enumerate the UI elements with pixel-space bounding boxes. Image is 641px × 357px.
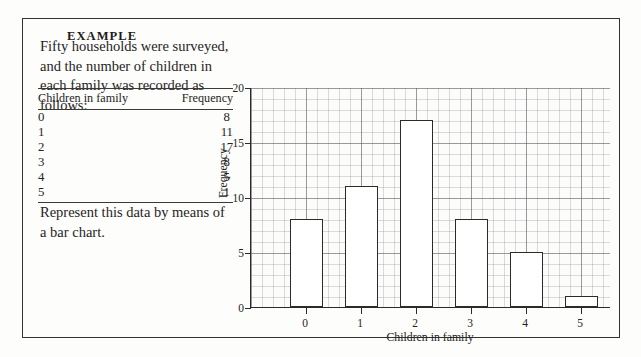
x-tick-label: 5	[577, 317, 583, 329]
table-row: 38	[38, 155, 233, 170]
table-body: 08111217384551	[38, 110, 233, 203]
bar-5	[565, 296, 598, 307]
x-tick-mark	[416, 308, 417, 314]
table-row: 111	[38, 125, 233, 140]
table-cell-children: 3	[38, 155, 134, 170]
y-tick-label: 10	[233, 192, 245, 204]
y-tick-mark	[245, 253, 251, 254]
x-tick-mark	[581, 308, 582, 314]
y-axis-label: Frequency	[216, 148, 231, 198]
frequency-table: Children in family Frequency 08111217384…	[38, 88, 233, 203]
bar-2	[400, 120, 433, 307]
y-tick-mark	[245, 88, 251, 89]
x-tick-label: 1	[357, 317, 363, 329]
bar-chart: Frequency Children in family 05101520 01…	[218, 80, 618, 338]
table-row: 51	[38, 185, 233, 203]
y-tick-label: 0	[238, 302, 244, 314]
plot-area	[250, 88, 610, 308]
table-cell-children: 0	[38, 110, 134, 126]
x-axis-label: Children in family	[386, 330, 473, 345]
example-question-text: Represent this data by means of a bar ch…	[40, 203, 230, 242]
table-row: 08	[38, 110, 233, 126]
table-header: Children in family Frequency	[38, 89, 233, 110]
x-tick-mark	[306, 308, 307, 314]
table-cell-children: 2	[38, 140, 134, 155]
x-tick-label: 3	[467, 317, 473, 329]
x-tick-mark	[471, 308, 472, 314]
y-tick-label: 15	[233, 137, 245, 149]
bar-4	[510, 252, 543, 307]
x-tick-mark	[526, 308, 527, 314]
x-tick-mark	[361, 308, 362, 314]
y-tick-mark	[245, 143, 251, 144]
table-row: 45	[38, 170, 233, 185]
y-tick-label: 20	[233, 82, 245, 94]
bar-1	[345, 186, 378, 307]
table-cell-children: 5	[38, 185, 134, 203]
y-tick-mark	[245, 308, 251, 309]
table-header-children: Children in family	[38, 89, 134, 110]
bar-3	[455, 219, 488, 307]
x-tick-label: 0	[302, 317, 308, 329]
y-tick-mark	[245, 198, 251, 199]
page-root: EXAMPLE Fifty households were surveyed, …	[0, 0, 641, 357]
table-cell-children: 1	[38, 125, 134, 140]
table-row: 217	[38, 140, 233, 155]
x-tick-label: 4	[522, 317, 528, 329]
table-cell-children: 4	[38, 170, 134, 185]
table-header-row: Children in family Frequency	[38, 89, 233, 110]
bar-0	[290, 219, 323, 307]
y-tick-label: 5	[238, 247, 244, 259]
x-tick-label: 2	[412, 317, 418, 329]
